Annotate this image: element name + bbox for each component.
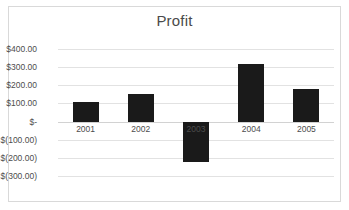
y-axis-tick-label: $300.00 [0, 62, 37, 72]
y-axis-tick-label: $(100.00) [0, 135, 37, 145]
x-axis-tick-label: 2005 [279, 124, 334, 134]
y-axis-tick-label: $200.00 [0, 80, 37, 90]
bar-group: 2004 [224, 49, 279, 176]
y-axis-tick-label: $(300.00) [0, 171, 37, 181]
x-axis-tick-label: 2004 [224, 124, 279, 134]
y-axis-tick-label: $(200.00) [0, 153, 37, 163]
x-axis-tick-label: 2001 [58, 124, 113, 134]
bar [238, 64, 264, 121]
chart-container: Profit $400.00$300.00$200.00$100.00$-$(1… [0, 0, 349, 210]
x-axis-tick-label: 2002 [113, 124, 168, 134]
y-axis-tick-label: $- [0, 117, 37, 127]
y-axis-tick-label: $100.00 [0, 98, 37, 108]
bar [128, 94, 154, 121]
bar [293, 89, 319, 122]
chart-title: Profit [0, 12, 349, 29]
bar [73, 102, 99, 122]
bar-group: 2005 [279, 49, 334, 176]
x-axis-tick-label: 2003 [168, 124, 223, 134]
bar-group: 2003 [168, 49, 223, 176]
y-axis-tick-label: $400.00 [0, 44, 37, 54]
plot-area: $400.00$300.00$200.00$100.00$-$(100.00)$… [58, 49, 334, 176]
bar-group: 2002 [113, 49, 168, 176]
bar-group: 2001 [58, 49, 113, 176]
gridline [58, 176, 334, 177]
